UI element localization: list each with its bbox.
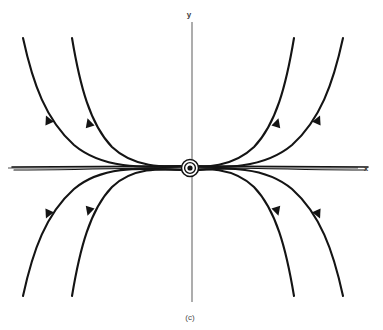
critical-point-marker <box>182 160 199 177</box>
trajectory-lower-left-inner <box>72 169 184 296</box>
trajectory-lower-left-outer <box>23 169 184 296</box>
y-axis-label: y <box>187 10 192 19</box>
phase-portrait-canvas: y x (c) <box>0 0 383 330</box>
trajectory-upper-left-outer <box>23 38 184 167</box>
critical-point-center-dot <box>187 165 192 170</box>
trajectory-upper-right-inner <box>196 38 294 166</box>
x-axis-label: x <box>364 164 369 173</box>
trajectory-upper-left-inner <box>72 38 184 166</box>
trajectory-upper-right-outer <box>196 38 343 167</box>
phase-portrait-figure: y x (c) <box>0 0 383 330</box>
figure-caption: (c) <box>185 313 195 322</box>
trajectory-lower-right-inner <box>196 169 294 296</box>
trajectory-lower-right-outer <box>196 169 343 296</box>
